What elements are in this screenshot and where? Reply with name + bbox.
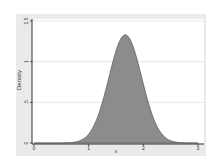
x-tick-label: 0 — [33, 145, 36, 151]
y-tick-label: 0 — [23, 141, 29, 144]
y-axis-label: Density — [16, 70, 22, 90]
x-tick-label: 3 — [197, 145, 200, 151]
y-tick-label: .5 — [23, 100, 29, 104]
x-tick-label: 2 — [142, 145, 145, 151]
y-tick-label: 1.5 — [23, 17, 29, 24]
density-plot-svg: 0.511.5 0123 Density x — [0, 0, 222, 168]
density-chart: 0.511.5 0123 Density x — [0, 0, 222, 168]
y-tick-label: 1 — [23, 60, 29, 63]
x-tick-label: 1 — [87, 145, 90, 151]
